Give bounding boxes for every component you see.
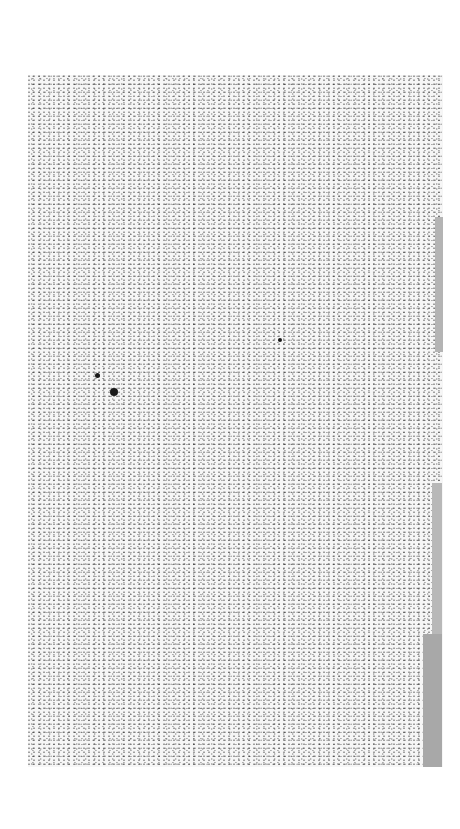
ink-spot — [278, 338, 282, 342]
edge-bar — [432, 483, 442, 635]
ink-spot — [95, 373, 100, 378]
edge-bar — [435, 217, 443, 352]
ink-spot — [110, 388, 118, 396]
paper-texture — [28, 75, 443, 767]
edge-bar — [423, 634, 442, 767]
